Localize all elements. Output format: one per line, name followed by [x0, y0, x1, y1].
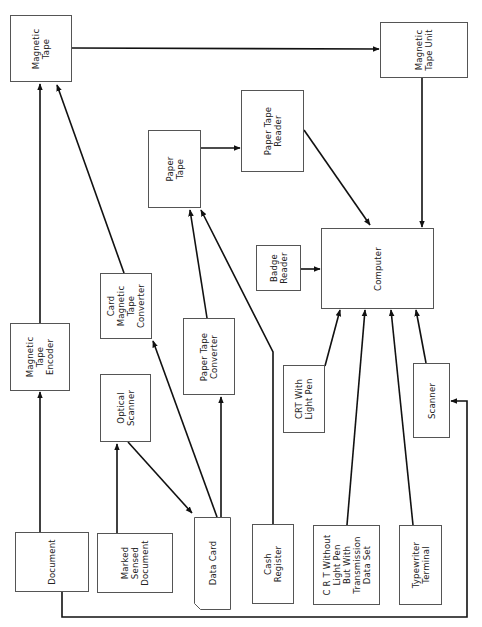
- node-label: Scanner: [427, 382, 437, 418]
- node-label: Document: [47, 539, 57, 585]
- node-label: Card Magnetic Tape Converter: [106, 284, 146, 328]
- node-label: Magnetic Tape Unit: [414, 29, 434, 70]
- edge-typewriter-to-computer: [391, 310, 413, 525]
- node-card-magnetic-tape-converter: Card Magnetic Tape Converter: [100, 273, 152, 339]
- node-typewriter-terminal: Typewriter Terminal: [399, 525, 442, 605]
- node-crt-with-light-pen: CRT With Light Pen: [283, 365, 325, 433]
- node-label: Marked Sensed Document: [120, 540, 150, 586]
- node-cash-register: Cash Register: [252, 524, 294, 604]
- node-document: Document: [15, 532, 89, 592]
- edge-optical-to-datacard: [128, 442, 192, 513]
- edge-scanner-to-computer: [416, 310, 426, 363]
- node-crt-without-light-pen: C R T Without Light Pen But With Transmi…: [313, 525, 380, 605]
- data-flow-diagram: Magnetic Tape Magnetic Tape Unit Paper T…: [0, 0, 482, 627]
- node-label: Badge Reader: [269, 252, 289, 283]
- node-magnetic-tape-unit: Magnetic Tape Unit: [380, 22, 468, 78]
- node-label: Computer: [373, 247, 383, 291]
- node-optical-scanner: Optical Scanner: [100, 374, 151, 442]
- edge-cardconv-to-magtape: [57, 85, 124, 273]
- edge-reader-to-computer: [304, 130, 370, 225]
- node-label: Data Card: [208, 541, 218, 586]
- edge-ptconv-to-papertape: [190, 210, 207, 318]
- node-label: Typewriter Terminal: [411, 542, 431, 588]
- node-magnetic-tape: Magnetic Tape: [10, 15, 72, 82]
- node-marked-sensed-document: Marked Sensed Document: [97, 533, 173, 593]
- node-data-card: Data Card: [194, 517, 231, 609]
- node-label: Paper Tape Reader: [263, 107, 283, 155]
- node-magnetic-tape-encoder: Magnetic Tape Encoder: [10, 323, 70, 391]
- node-label: Cash Register: [263, 546, 283, 583]
- node-scanner: Scanner: [413, 363, 450, 438]
- node-label: Paper Tape Converter: [199, 332, 219, 380]
- node-label: Magnetic Tape Encoder: [25, 337, 55, 378]
- node-label: C R T Without Light Pen But With Transmi…: [322, 535, 372, 596]
- node-badge-reader: Badge Reader: [256, 245, 301, 291]
- node-label: Paper Tape: [165, 156, 185, 181]
- node-paper-tape-converter: Paper Tape Converter: [183, 318, 235, 395]
- edge-crtlp-to-computer: [325, 310, 340, 366]
- node-label: Optical Scanner: [116, 390, 136, 426]
- edge-magtape-to-magtapeunit: [72, 48, 379, 49]
- node-label: Magnetic Tape: [31, 28, 51, 69]
- node-label: CRT With Light Pen: [294, 378, 314, 419]
- node-paper-tape-reader: Paper Tape Reader: [241, 90, 304, 172]
- node-paper-tape: Paper Tape: [148, 130, 201, 208]
- edge-crtnolp-to-computer: [347, 310, 365, 525]
- node-computer: Computer: [321, 228, 434, 309]
